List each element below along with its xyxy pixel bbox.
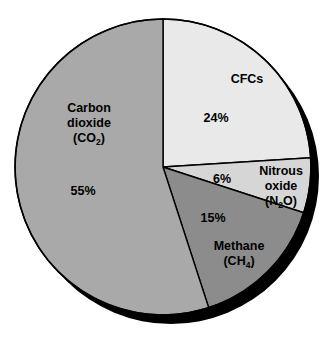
- slice-value-methane: 15%: [200, 211, 225, 225]
- formula-post-nitrous-oxide: O): [283, 194, 297, 208]
- formula-pre-carbon-dioxide: (CO: [73, 131, 96, 145]
- slice-label-nitrous-oxide-line2: oxide: [265, 179, 298, 193]
- pie-chart-figure: CFCs 24% Nitrous oxide (N2O) 6% Methane …: [0, 0, 331, 345]
- pie-slice-cfcs[interactable]: [163, 19, 311, 167]
- formula-post-methane: ): [250, 254, 254, 268]
- pie-chart-svg: CFCs 24% Nitrous oxide (N2O) 6% Methane …: [0, 0, 331, 345]
- slice-formula-carbon-dioxide: (CO2): [73, 131, 105, 147]
- slice-label-carbon-dioxide-line2: dioxide: [67, 116, 111, 130]
- formula-pre-nitrous-oxide: (N: [265, 194, 278, 208]
- slice-value-cfcs: 24%: [203, 111, 228, 125]
- slice-formula-methane: (CH4): [223, 254, 254, 270]
- slice-label-cfcs: CFCs: [231, 72, 264, 86]
- slice-value-nitrous-oxide: 6%: [213, 172, 231, 186]
- formula-post-carbon-dioxide: ): [101, 131, 105, 145]
- slice-label-nitrous-oxide-line1: Nitrous: [259, 164, 303, 178]
- formula-pre-methane: (CH: [223, 254, 245, 268]
- slice-value-carbon-dioxide: 55%: [70, 184, 95, 198]
- slice-label-carbon-dioxide-line1: Carbon: [67, 101, 111, 115]
- slice-label-methane: Methane: [214, 239, 265, 253]
